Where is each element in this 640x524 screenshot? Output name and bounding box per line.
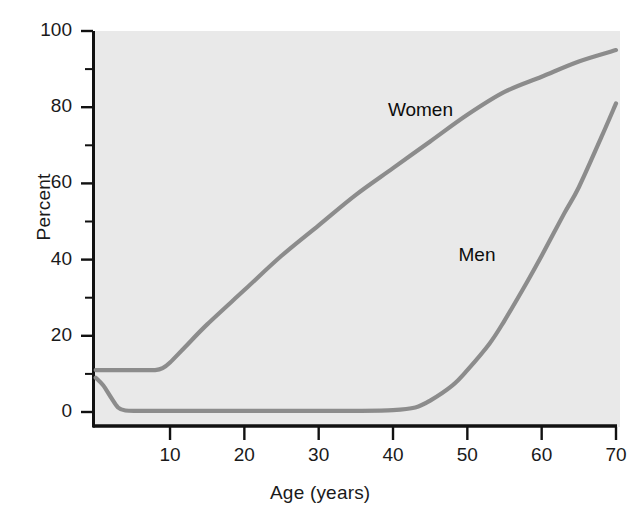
x-tick-label: 70 [593, 444, 639, 466]
y-tick-label: 20 [20, 324, 72, 346]
x-tick-label: 30 [296, 444, 342, 466]
y-tick-label: 80 [20, 95, 72, 117]
y-tick-label: 100 [20, 19, 72, 41]
x-tick-label: 50 [444, 444, 490, 466]
x-tick-label: 60 [519, 444, 565, 466]
x-axis-title: Age (years) [270, 482, 370, 504]
x-tick-label: 40 [370, 444, 416, 466]
y-axis-title: Percent [33, 147, 55, 267]
x-tick-label: 20 [221, 444, 267, 466]
series-annotation-men: Men [459, 244, 496, 266]
chart-figure: 020406080100 10203040506070 Percent Age … [0, 0, 640, 524]
series-annotation-women: Women [388, 99, 453, 121]
plot-background [93, 31, 620, 427]
y-tick-label: 0 [20, 400, 72, 422]
x-tick-label: 10 [147, 444, 193, 466]
axis-minor-ticks [85, 69, 93, 374]
